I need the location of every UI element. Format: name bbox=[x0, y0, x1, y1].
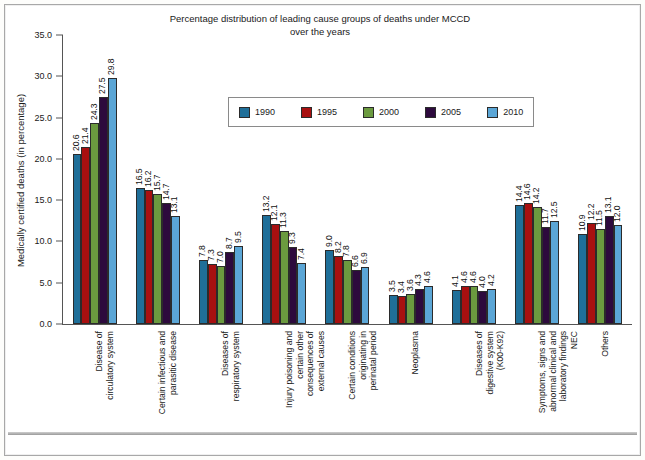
y-axis-tick-mark bbox=[56, 324, 63, 325]
bar-group: 7.87.37.08.79.5 bbox=[189, 35, 252, 324]
bar-slot: 14.2 bbox=[533, 35, 542, 324]
bar[interactable]: 4.6 bbox=[470, 286, 479, 324]
y-axis-label-text: Medically certified deaths (in percentag… bbox=[16, 93, 27, 266]
bar-group: 14.414.614.211.712.5 bbox=[506, 35, 569, 324]
x-axis-category: Diseases of respiratory system bbox=[189, 327, 252, 435]
y-axis-tick-label: 0.0 bbox=[39, 319, 52, 329]
bar[interactable]: 20.6 bbox=[73, 154, 82, 324]
x-axis-category-label: Diseases of digestive system (K00-K92) bbox=[474, 331, 506, 431]
bar[interactable]: 4.2 bbox=[487, 289, 496, 324]
bar[interactable]: 3.6 bbox=[406, 294, 415, 324]
bar[interactable]: 7.8 bbox=[343, 260, 352, 324]
bar-group-bars: 7.87.37.08.79.5 bbox=[199, 35, 243, 324]
bar[interactable]: 4.6 bbox=[424, 286, 433, 324]
bar[interactable]: 8.2 bbox=[334, 256, 343, 324]
bar[interactable]: 14.7 bbox=[162, 203, 171, 324]
bar-slot: 4.6 bbox=[424, 35, 433, 324]
bar[interactable]: 16.2 bbox=[145, 190, 154, 324]
bar[interactable]: 12.2 bbox=[587, 223, 596, 324]
bar-group: 16.516.215.714.713.1 bbox=[126, 35, 189, 324]
y-axis-tick-label: 20.0 bbox=[34, 154, 52, 164]
bar-group: 10.912.211.513.112.0 bbox=[569, 35, 632, 324]
bar-slot: 6.9 bbox=[361, 35, 370, 324]
bar-value-label: 4.2 bbox=[486, 275, 496, 287]
bar[interactable]: 4.6 bbox=[461, 286, 470, 324]
legend-item-1990[interactable]: 1990 bbox=[239, 107, 275, 118]
bar[interactable]: 21.4 bbox=[81, 147, 90, 324]
bar[interactable]: 4.3 bbox=[415, 289, 424, 325]
bar[interactable]: 12.0 bbox=[614, 225, 623, 324]
legend-item-2005[interactable]: 2005 bbox=[425, 107, 461, 118]
bar[interactable]: 10.9 bbox=[578, 234, 587, 324]
bar[interactable]: 6.9 bbox=[361, 267, 370, 324]
legend-item-1995[interactable]: 1995 bbox=[301, 107, 337, 118]
y-axis-tick-mark bbox=[56, 117, 63, 118]
bar[interactable]: 4.1 bbox=[452, 290, 461, 324]
bar[interactable]: 13.2 bbox=[262, 215, 271, 324]
bar-slot: 13.2 bbox=[262, 35, 271, 324]
x-axis-category: Disease of circulatory system bbox=[62, 327, 125, 435]
bar[interactable]: 6.6 bbox=[352, 270, 361, 324]
bar-value-label: 12.5 bbox=[549, 201, 559, 217]
bar[interactable]: 15.7 bbox=[153, 194, 162, 324]
legend-item-2000[interactable]: 2000 bbox=[363, 107, 399, 118]
bar[interactable]: 9.5 bbox=[234, 246, 243, 324]
bar[interactable]: 13.1 bbox=[171, 216, 180, 324]
bar[interactable]: 16.5 bbox=[136, 188, 145, 324]
bar-slot: 10.9 bbox=[578, 35, 587, 324]
bar[interactable]: 24.3 bbox=[90, 123, 99, 324]
bar-value-label: 14.2 bbox=[531, 187, 541, 203]
y-axis-tick-mark bbox=[56, 35, 63, 36]
bar[interactable]: 14.4 bbox=[515, 205, 524, 324]
bar[interactable]: 29.8 bbox=[108, 78, 117, 324]
y-axis-tick-label: 5.0 bbox=[39, 278, 52, 288]
bar-value-label: 6.9 bbox=[359, 252, 369, 264]
bar[interactable]: 11.5 bbox=[596, 229, 605, 324]
bar[interactable]: 3.4 bbox=[398, 296, 407, 324]
x-axis-category: Certain conditions originating in perina… bbox=[315, 327, 378, 435]
bar[interactable]: 7.4 bbox=[297, 263, 306, 324]
bar-group: 13.212.111.39.37.4 bbox=[253, 35, 316, 324]
bar-group-bars: 10.912.211.513.112.0 bbox=[578, 35, 622, 324]
bar[interactable]: 14.2 bbox=[533, 207, 542, 324]
bar[interactable]: 9.0 bbox=[325, 250, 334, 324]
x-axis-category: Certain infectious and parasitic disease bbox=[125, 327, 188, 435]
bar-value-label: 27.5 bbox=[97, 78, 107, 94]
bar-slot: 11.7 bbox=[542, 35, 551, 324]
bar[interactable]: 3.5 bbox=[389, 295, 398, 324]
legend-swatch bbox=[363, 107, 374, 118]
y-axis-label: Medically certified deaths (in percentag… bbox=[14, 35, 28, 325]
bar[interactable]: 14.6 bbox=[524, 203, 533, 324]
y-axis-tick-mark bbox=[56, 158, 63, 159]
bar[interactable]: 12.1 bbox=[271, 224, 280, 324]
bar[interactable]: 11.3 bbox=[280, 231, 289, 324]
x-axis-category: Symptoms, signs and abnormal clinical an… bbox=[505, 327, 568, 435]
bar-group-bars: 16.516.215.714.713.1 bbox=[136, 35, 180, 324]
legend-swatch bbox=[487, 107, 498, 118]
bar[interactable]: 8.7 bbox=[225, 252, 234, 324]
bar[interactable]: 13.1 bbox=[605, 216, 614, 324]
y-axis-tick-label: 35.0 bbox=[34, 30, 52, 40]
bar[interactable]: 7.8 bbox=[199, 260, 208, 324]
bar[interactable]: 12.5 bbox=[550, 221, 559, 324]
bar[interactable]: 7.3 bbox=[208, 264, 217, 324]
bar-value-label: 7.4 bbox=[296, 248, 306, 260]
y-axis-tick-mark bbox=[56, 76, 63, 77]
y-axis-tick-label: 25.0 bbox=[34, 113, 52, 123]
y-axis-tick-label: 15.0 bbox=[34, 195, 52, 205]
bar-value-label: 4.6 bbox=[422, 271, 432, 283]
legend-label: 2005 bbox=[441, 107, 461, 117]
bar-group-bars: 4.14.64.64.04.2 bbox=[452, 35, 496, 324]
bar-slot: 7.8 bbox=[343, 35, 352, 324]
bar[interactable]: 7.0 bbox=[217, 266, 226, 324]
bar-value-label: 29.8 bbox=[106, 59, 116, 75]
bar-slot: 7.4 bbox=[297, 35, 306, 324]
bar[interactable]: 11.7 bbox=[542, 227, 551, 324]
bar-slot: 14.4 bbox=[515, 35, 524, 324]
bar-slot: 13.1 bbox=[171, 35, 180, 324]
legend-item-2010[interactable]: 2010 bbox=[487, 107, 523, 118]
bar[interactable]: 4.0 bbox=[478, 291, 487, 324]
bar-slot: 7.0 bbox=[217, 35, 226, 324]
chart-legend: 19901995200020052010 bbox=[228, 97, 534, 127]
bar[interactable]: 27.5 bbox=[99, 97, 108, 324]
